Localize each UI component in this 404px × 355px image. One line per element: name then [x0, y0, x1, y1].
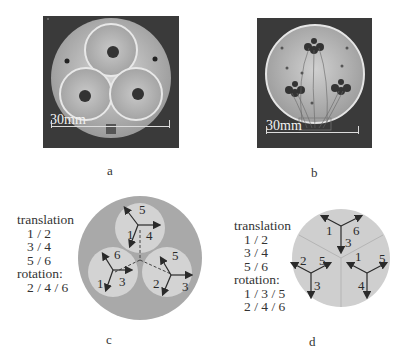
panel-label-c: c: [106, 332, 112, 348]
c-br-label-5: 5: [172, 248, 179, 263]
legend-c-pair-1: 1 / 2: [17, 227, 74, 241]
c-top-label-5: 5: [139, 202, 146, 217]
legend-c-pair-2: 3 / 4: [17, 240, 74, 254]
d-top-label-6: 6: [353, 223, 360, 238]
legend-c-rotation-1: 2 / 4 / 6: [17, 281, 74, 295]
panel-label-a: a: [107, 163, 113, 179]
c-bl-label-1: 1: [97, 276, 104, 291]
photo-panel-b: 30mm: [257, 18, 372, 148]
d-top-label-1: 1: [326, 223, 333, 238]
c-bl-label-3: 3: [119, 274, 126, 289]
legend-d-pair-1: 1 / 2: [234, 233, 291, 247]
legend-d-rotation-title: rotation:: [234, 273, 291, 287]
legend-c-translation-title: translation: [17, 213, 74, 227]
c-br-label-2: 2: [153, 276, 160, 291]
d-left-label-5: 5: [319, 253, 326, 268]
legend-d-rotation-2: 2 / 4 / 6: [234, 300, 291, 314]
legend-d-pair-3: 5 / 6: [234, 260, 291, 274]
scalebar-b: [266, 132, 358, 133]
scalebar-tick-b-left: [266, 126, 267, 134]
legend-d: translation 1 / 2 3 / 4 5 / 6 rotation: …: [234, 219, 291, 314]
d-right-label-5: 5: [379, 251, 386, 266]
d-left-label-3: 3: [314, 278, 321, 293]
scalebar-tick-a-right: [169, 120, 170, 128]
photo-panel-a: 30mm: [43, 16, 179, 148]
panel-label-b: b: [311, 165, 318, 181]
c-top-label-4: 4: [146, 228, 153, 243]
schematic-c: 5 4 1 6 3 1 5 2 3: [75, 192, 207, 324]
legend-d-pair-2: 3 / 4: [234, 246, 291, 260]
scalebar-a: [51, 126, 169, 127]
device-photo-a: [43, 16, 179, 148]
legend-c-rotation-title: rotation:: [17, 267, 74, 281]
d-right-label-1: 1: [355, 249, 362, 264]
d-right-label-4: 4: [358, 278, 365, 293]
d-top-label-3: 3: [345, 235, 352, 250]
legend-d-translation-title: translation: [234, 219, 291, 233]
module-bottom-left-c: [88, 247, 138, 297]
schematic-d: 1 6 3 2 5 3 1 5 4: [285, 205, 400, 313]
legend-c: translation 1 / 2 3 / 4 5 / 6 rotation: …: [17, 213, 74, 294]
panel-label-d: d: [309, 334, 316, 350]
scalebar-tick-a-left: [51, 120, 52, 128]
c-bl-label-6: 6: [114, 247, 121, 262]
d-left-label-2: 2: [300, 253, 307, 268]
legend-c-pair-3: 5 / 6: [17, 254, 74, 268]
legend-d-rotation-1: 1 / 3 / 5: [234, 287, 291, 301]
scalebar-tick-b-right: [358, 126, 359, 134]
c-br-label-3: 3: [182, 279, 189, 294]
c-top-label-1: 1: [127, 227, 134, 242]
